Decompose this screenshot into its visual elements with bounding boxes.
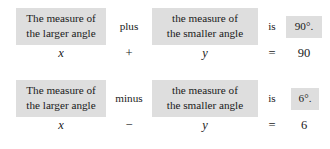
equation-row: x + y = 90 <box>0 44 330 70</box>
phrase-line-2: the larger angle <box>16 98 106 113</box>
phrase-row: The measure of the larger angle minus th… <box>0 76 330 116</box>
equation-result: 6 <box>286 118 322 133</box>
phrase-line-2: the smaller angle <box>152 98 258 113</box>
phrase-line-1: the measure of <box>152 83 258 98</box>
equation-operator: + <box>106 46 152 61</box>
equation-operator: − <box>106 118 152 133</box>
phrase-line-1: the measure of <box>152 11 258 26</box>
equation-equals-sign: = <box>258 118 286 133</box>
equation-row: x − y = 6 <box>0 116 330 142</box>
operator-word-minus: minus <box>106 92 152 104</box>
operator-word-plus: plus <box>106 20 152 32</box>
equation-left-variable: x <box>16 46 106 61</box>
phrase-line-1: The measure of <box>16 11 106 26</box>
phrase-line-2: the larger angle <box>16 26 106 41</box>
phrase-box-value: 6°. <box>291 88 319 110</box>
equation-left-variable: x <box>16 118 106 133</box>
equation-result: 90 <box>286 46 322 61</box>
phrase-line-2: the smaller angle <box>152 26 258 41</box>
phrase-box-smaller-angle: the measure of the smaller angle <box>152 8 258 45</box>
equation-right-variable: y <box>152 46 258 61</box>
phrase-box-larger-angle: The measure of the larger angle <box>16 80 106 117</box>
phrase-box-smaller-angle: the measure of the smaller angle <box>152 80 258 117</box>
phrase-row: The measure of the larger angle plus the… <box>0 4 330 44</box>
phrase-box-larger-angle: The measure of the larger angle <box>16 8 106 45</box>
equation-right-variable: y <box>152 118 258 133</box>
phrase-line-1: The measure of <box>16 83 106 98</box>
translation-block-difference: The measure of the larger angle minus th… <box>0 76 330 142</box>
phrase-box-value: 90°. <box>286 16 322 38</box>
equation-equals-sign: = <box>258 46 286 61</box>
connector-word-is: is <box>258 20 286 32</box>
sentence-translation-figure: The measure of the larger angle plus the… <box>0 0 330 149</box>
translation-block-sum: The measure of the larger angle plus the… <box>0 4 330 70</box>
connector-word-is: is <box>258 92 286 104</box>
